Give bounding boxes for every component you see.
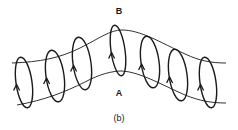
current-loop: [108, 24, 129, 76]
panel-label: (b): [114, 114, 125, 123]
current-loop: [13, 56, 36, 109]
label-a: A: [116, 89, 123, 98]
current-loop: [197, 56, 220, 109]
current-loop: [69, 36, 94, 91]
current-loop: [165, 48, 190, 102]
label-b: B: [116, 7, 123, 16]
current-loop: [137, 35, 162, 89]
diagram-canvas: B A (b): [0, 0, 238, 130]
flux-tube-diagram: [0, 0, 238, 130]
tube-upper-edge: [12, 30, 226, 63]
